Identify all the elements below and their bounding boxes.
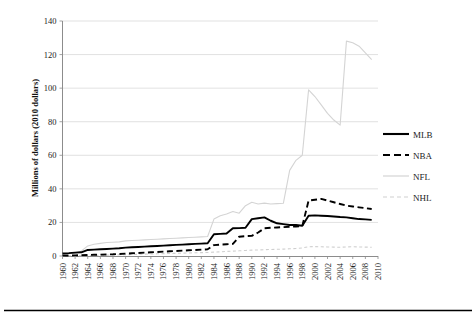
x-tick-label: 1996 — [285, 263, 295, 280]
x-tick-label: 1986 — [222, 263, 232, 280]
series-line-mlb — [63, 215, 372, 253]
legend-label-mlb: MLB — [413, 130, 433, 140]
x-tick-label: 1984 — [209, 262, 219, 280]
axis-lines — [63, 21, 379, 257]
data-series — [63, 41, 372, 256]
gridlines — [63, 21, 379, 222]
x-tick-label: 1972 — [133, 263, 143, 280]
x-tick-label: 1964 — [83, 262, 93, 280]
legend-label-nhl: NHL — [413, 193, 432, 203]
x-tick-label: 1982 — [196, 263, 206, 280]
x-tick-label: 2006 — [348, 263, 358, 280]
legend-label-nba: NBA — [413, 151, 433, 161]
x-tick-label: 1970 — [121, 263, 131, 280]
y-tick-label: 40 — [48, 184, 57, 194]
y-axis-ticks: 020406080100120140 — [44, 16, 63, 261]
chart-figure: 020406080100120140 196019621964196619681… — [0, 0, 476, 316]
y-tick-label: 80 — [48, 117, 57, 127]
x-tick-label: 1992 — [259, 263, 269, 280]
series-line-nba — [63, 199, 372, 256]
x-axis-ticks: 1960196219641966196819701972197419761978… — [58, 256, 384, 280]
x-tick-label: 1962 — [70, 263, 80, 280]
x-tick-label: 1998 — [297, 263, 307, 280]
x-tick-label: 1990 — [247, 263, 257, 280]
y-tick-label: 140 — [44, 16, 57, 26]
x-tick-label: 2008 — [360, 263, 370, 280]
x-tick-label: 1968 — [108, 263, 118, 280]
x-tick-label: 2002 — [323, 263, 333, 280]
x-tick-label: 1966 — [95, 263, 105, 280]
x-tick-label: 2010 — [373, 263, 383, 280]
y-tick-label: 20 — [48, 217, 57, 227]
y-tick-label: 60 — [48, 150, 57, 160]
line-chart: 020406080100120140 196019621964196619681… — [0, 0, 476, 316]
y-tick-label: 120 — [44, 50, 57, 60]
x-tick-label: 1994 — [272, 262, 282, 280]
x-tick-label: 1988 — [234, 263, 244, 280]
x-tick-label: 2000 — [310, 263, 320, 280]
y-tick-label: 0 — [52, 251, 56, 261]
y-axis-title: Millions of dollars (2010 dollars) — [30, 79, 40, 197]
x-tick-label: 1974 — [146, 262, 156, 280]
x-tick-label: 1976 — [158, 263, 168, 280]
legend-label-nfl: NFL — [413, 172, 430, 182]
x-tick-label: 1978 — [171, 263, 181, 280]
chart-legend: MLBNBANFLNHL — [383, 130, 433, 203]
y-tick-label: 100 — [44, 83, 57, 93]
x-tick-label: 2004 — [335, 262, 345, 280]
x-tick-label: 1980 — [184, 263, 194, 280]
x-tick-label: 1960 — [58, 263, 68, 280]
